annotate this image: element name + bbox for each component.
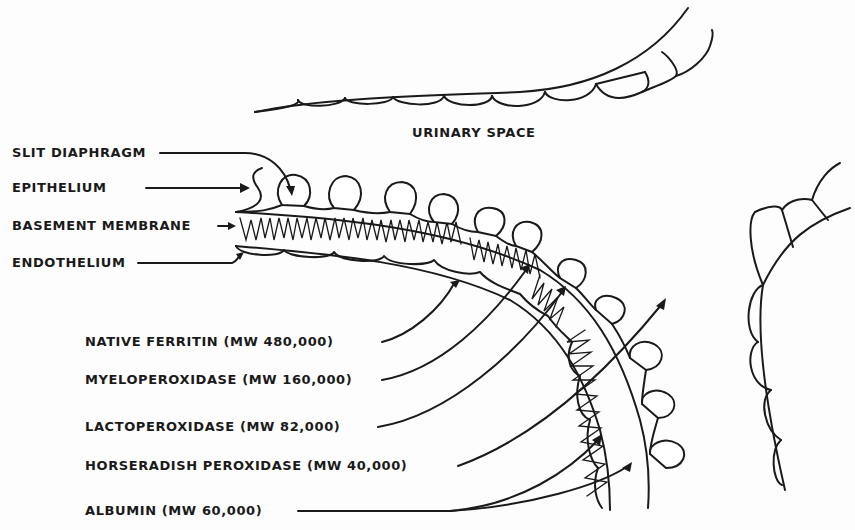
leader-albumin-b	[450, 466, 628, 511]
leader-endothelium	[138, 255, 240, 263]
urinary-space-label: URINARY SPACE	[412, 126, 536, 139]
glomerular-diagram: URINARY SPACE SLIT DIAPHRAGM EPITHELIUM …	[0, 0, 855, 530]
parietal-epithelium-right	[749, 163, 850, 490]
leader-lactoperoxidase	[378, 292, 562, 427]
epithelium-label: EPITHELIUM	[12, 181, 107, 194]
horseradish-peroxidase-label: HORSERADISH PEROXIDASE (MW 40,000)	[85, 459, 407, 472]
endothelium-label: ENDOTHELIUM	[12, 256, 125, 269]
slit-diaphragm-label: SLIT DIAPHRAGM	[12, 146, 146, 159]
native-ferritin-label: NATIVE FERRITIN (MW 480,000)	[85, 335, 334, 348]
diagram-drawing	[0, 0, 855, 530]
albumin-label: ALBUMIN (MW 60,000)	[85, 504, 262, 517]
basement-membrane-label: BASEMENT MEMBRANE	[12, 219, 191, 232]
leader-myeloperoxidase	[382, 270, 526, 380]
leader-slit-diaphragm	[160, 153, 290, 188]
lactoperoxidase-label: LACTOPEROXIDASE (MW 82,000)	[85, 420, 340, 433]
leader-albumin-a	[298, 440, 598, 511]
leader-horseradish-peroxidase	[458, 304, 662, 466]
leader-native-ferritin	[382, 282, 455, 342]
parietal-epithelium-top	[255, 8, 713, 112]
myeloperoxidase-label: MYELOPEROXIDASE (MW 160,000)	[85, 373, 352, 386]
